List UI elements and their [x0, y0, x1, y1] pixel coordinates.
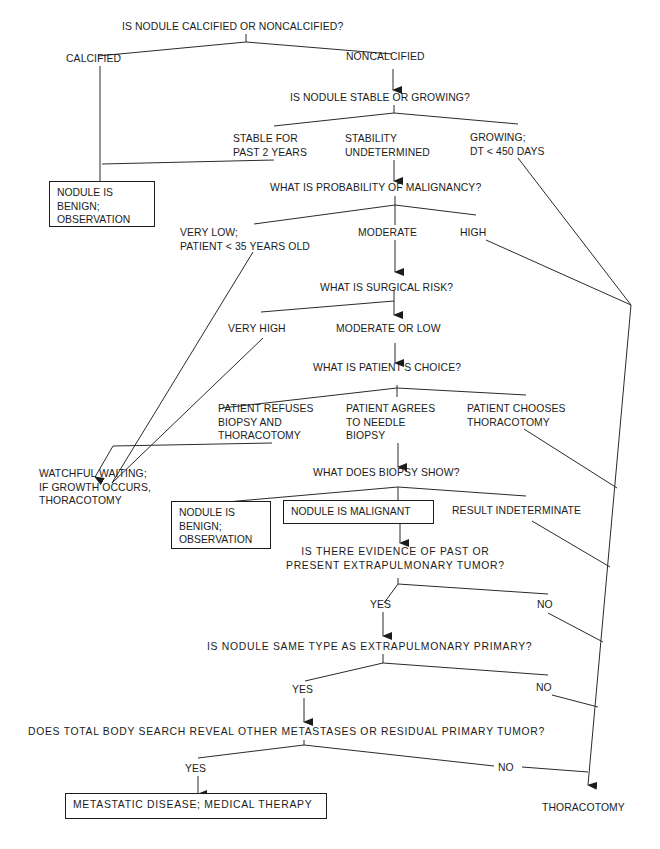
outcome-thoracotomy: THORACOTOMY: [542, 801, 625, 815]
question-probability-malignancy: WHAT IS PROBABILITY OF MALIGNANCY?: [270, 181, 481, 195]
question-extrapulmonary-tumor: IS THERE EVIDENCE OF PAST OR PRESENT EXT…: [286, 545, 505, 572]
label-growing: GROWING; DT < 450 DAYS: [470, 131, 545, 158]
label-no-1: NO: [537, 598, 553, 612]
label-yes-3: YES: [185, 762, 206, 776]
outcome-nodule-malignant: NODULE IS MALIGNANT: [283, 500, 434, 524]
outcome-benign-observation-2: NODULE IS BENIGN; OBSERVATION: [171, 501, 271, 549]
label-very-low: VERY LOW; PATIENT < 35 YEARS OLD: [180, 226, 310, 253]
question-surgical-risk: WHAT IS SURGICAL RISK?: [320, 281, 453, 295]
label-very-high: VERY HIGH: [228, 322, 286, 336]
label-noncalcified: NONCALCIFIED: [346, 50, 425, 64]
outcome-watchful-waiting: WATCHFUL WAITING; IF GROWTH OCCURS, THOR…: [39, 467, 151, 508]
question-patient-choice: WHAT IS PATIENT'S CHOICE?: [313, 361, 461, 375]
label-stability-undetermined: STABILITY UNDETERMINED: [345, 132, 430, 159]
label-patient-refuses: PATIENT REFUSES BIOPSY AND THORACOTOMY: [218, 402, 314, 443]
outcome-metastatic-disease: METASTATIC DISEASE; MEDICAL THERAPY: [65, 793, 327, 819]
label-result-indeterminate: RESULT INDETERMINATE: [452, 504, 581, 518]
label-moderate: MODERATE: [358, 226, 417, 240]
label-patient-chooses: PATIENT CHOOSES THORACOTOMY: [467, 402, 566, 429]
label-patient-agrees: PATIENT AGREES TO NEEDLE BIOPSY: [346, 402, 435, 443]
label-no-2: NO: [536, 681, 552, 695]
label-moderate-or-low: MODERATE OR LOW: [336, 322, 441, 336]
label-yes-1: YES: [370, 598, 391, 612]
question-biopsy-result: WHAT DOES BIOPSY SHOW?: [313, 466, 460, 480]
outcome-benign-observation-1: NODULE IS BENIGN; OBSERVATION: [49, 181, 155, 227]
question-calcified: IS NODULE CALCIFIED OR NONCALCIFIED?: [122, 20, 343, 34]
label-yes-2: YES: [292, 683, 313, 697]
label-calcified: CALCIFIED: [66, 52, 121, 66]
label-stable-2-years: STABLE FOR PAST 2 YEARS: [233, 132, 307, 159]
question-stable-growing: IS NODULE STABLE OR GROWING?: [290, 91, 470, 105]
question-same-type: IS NODULE SAME TYPE AS EXTRAPULMONARY PR…: [207, 640, 532, 654]
question-body-search: DOES TOTAL BODY SEARCH REVEAL OTHER META…: [28, 725, 545, 739]
label-high: HIGH: [460, 226, 486, 240]
label-no-3: NO: [498, 761, 514, 775]
